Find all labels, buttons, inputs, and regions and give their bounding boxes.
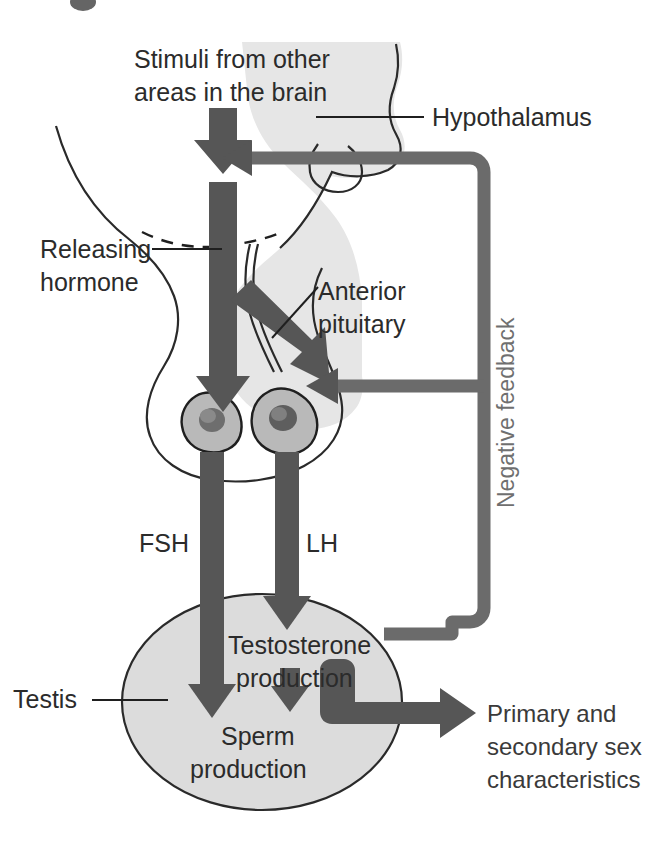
scan-artifact (70, 0, 96, 11)
figure-canvas: Stimuli from other areas in the brain Hy… (0, 0, 671, 846)
pituitary-cell-left (182, 393, 242, 453)
label-testosterone-line2: production (236, 664, 353, 692)
label-sex-characteristics-line2: secondary sex (487, 733, 642, 760)
label-anterior-pituitary-line2: pituitary (318, 310, 406, 338)
label-fsh: FSH (139, 529, 189, 557)
label-sperm-line2: production (190, 755, 307, 783)
label-stimuli-line1: Stimuli from other (134, 45, 330, 73)
label-hypothalamus: Hypothalamus (432, 103, 592, 131)
arrow-lh-shaft (275, 452, 299, 602)
label-stimuli-line2: areas in the brain (134, 78, 327, 106)
label-sex-characteristics-line3: characteristics (487, 766, 640, 793)
label-releasing-hormone-line1: Releasing (40, 235, 151, 263)
arrow-fsh-shaft (200, 452, 224, 690)
endocrine-diagram: Stimuli from other areas in the brain Hy… (0, 0, 671, 846)
label-sex-characteristics-line1: Primary and (487, 700, 616, 727)
label-testosterone-line1: Testosterone (228, 631, 371, 659)
label-lh: LH (306, 529, 338, 557)
label-anterior-pituitary-line1: Anterior (318, 277, 406, 305)
label-sperm-line1: Sperm (221, 722, 295, 750)
arrow-releasing-hormone-shaft (209, 182, 237, 382)
label-releasing-hormone-line2: hormone (40, 268, 139, 296)
label-testis: Testis (13, 685, 77, 713)
label-negative-feedback: Negative feedback (493, 317, 519, 508)
